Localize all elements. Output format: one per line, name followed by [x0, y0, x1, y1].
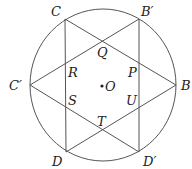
label-D-prime: D′ [142, 154, 156, 169]
segment-CD [65, 19, 66, 152]
label-B-prime: B′ [140, 4, 154, 19]
label-O: O [105, 79, 116, 94]
label-B: B [180, 78, 191, 93]
segment-CB [65, 19, 176, 85]
segment-CprimeDprime [30, 85, 139, 152]
segment-BprimeCprime [30, 19, 139, 85]
geometry-diagram: C B′ C′ B D D′ Q R P S U T O [0, 0, 192, 169]
label-C: C [51, 4, 61, 19]
label-C-prime: C′ [9, 78, 22, 93]
label-P: P [127, 65, 137, 80]
label-D: D [51, 154, 63, 169]
label-U: U [126, 93, 138, 108]
segment-BD [66, 85, 176, 152]
label-S: S [68, 93, 77, 108]
center-point-O [100, 84, 103, 87]
label-Q: Q [97, 45, 108, 60]
label-T: T [97, 114, 107, 129]
label-R: R [67, 65, 78, 80]
